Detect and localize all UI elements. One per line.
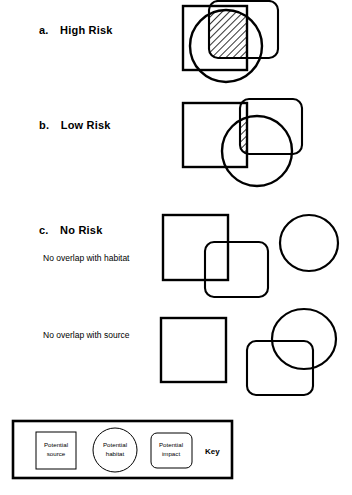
key-label-potential-impact-line2: impact bbox=[162, 450, 181, 457]
potential-habitat-shape-d bbox=[272, 309, 336, 369]
diagram-low-risk bbox=[180, 95, 320, 195]
potential-habitat-shape-b bbox=[222, 116, 292, 186]
key-legend: Potential source Potential habitat Poten… bbox=[13, 421, 232, 478]
diagram-high-risk bbox=[150, 0, 350, 100]
potential-source-shape-b bbox=[183, 103, 247, 167]
diagram-canvas: Potential source Potential habitat Poten… bbox=[0, 0, 352, 495]
key-label-potential-source-line2: source bbox=[47, 450, 66, 457]
hatch-overlap-high-risk bbox=[150, 0, 350, 100]
key-label-potential-habitat-line1: Potential bbox=[103, 441, 127, 448]
diagram-no-risk-habitat bbox=[163, 215, 338, 297]
potential-impact-shape-c bbox=[205, 242, 268, 297]
risk-overlap-figure: a. High Risk b. Low Risk c. No Risk No o… bbox=[0, 0, 352, 495]
key-label-potential-impact-line1: Potential bbox=[159, 441, 183, 448]
key-title: Key bbox=[205, 447, 220, 456]
diagram-no-risk-source bbox=[161, 309, 336, 395]
potential-source-shape-d bbox=[161, 318, 226, 382]
key-label-potential-source-line1: Potential bbox=[44, 441, 68, 448]
potential-habitat-shape-c bbox=[280, 215, 338, 271]
hatch-overlap-low-risk bbox=[180, 95, 320, 195]
key-label-potential-habitat-line2: habitat bbox=[106, 450, 125, 457]
potential-source-shape-c bbox=[163, 215, 228, 280]
